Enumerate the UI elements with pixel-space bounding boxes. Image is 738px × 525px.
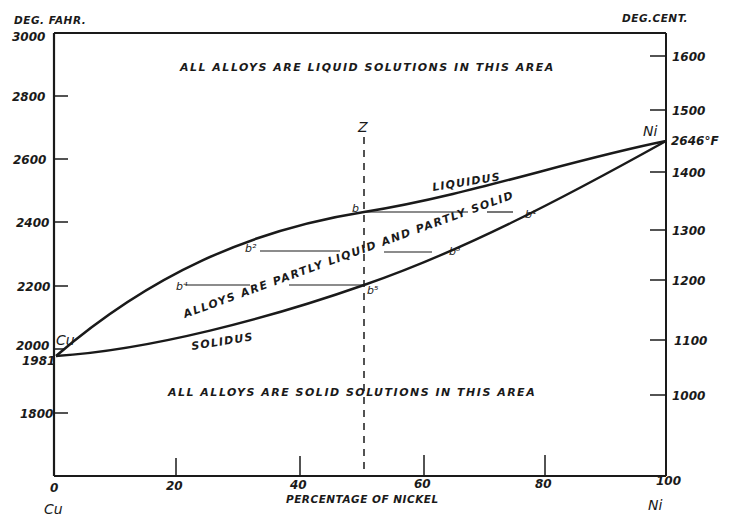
x-right-element-label: Ni: [648, 497, 662, 513]
ni-melting-temp: 2646°F: [671, 134, 719, 148]
x-left-element-label: Cu: [44, 501, 63, 517]
y-tick-2800: 2800: [12, 90, 45, 104]
point-b4: b⁴: [176, 280, 188, 293]
right-axis-ticks: [650, 56, 666, 395]
x-tick-100: 100: [656, 474, 681, 488]
x-tick-0: 0: [50, 481, 58, 495]
point-b3: b³: [449, 245, 461, 258]
phase-diagram: DEG. FAHR. DEG.CENT. PERCENTAGE OF NICKE…: [0, 0, 738, 525]
c-tick-1400: 1400: [672, 166, 705, 180]
point-b: b: [352, 202, 359, 215]
left-axis-ticks: [54, 96, 68, 413]
y-tick-1800: 1800: [20, 407, 53, 421]
c-tick-1600: 1600: [672, 50, 705, 64]
solid-region-label: ALL ALLOYS ARE SOLID SOLUTIONS IN THIS A…: [167, 386, 536, 399]
y-tick-2000: 2000: [16, 339, 49, 353]
cu-melting-temp: 1981: [22, 354, 55, 368]
left-axis-labels: 3000 2800 2600 2400 2200 2000 1800 1981: [12, 30, 55, 421]
x-tick-20: 20: [166, 479, 183, 493]
c-tick-1500: 1500: [672, 104, 705, 118]
point-b1: b¹: [525, 208, 536, 221]
right-axis-title: DEG.CENT.: [622, 12, 688, 24]
liquid-region-label: ALL ALLOYS ARE LIQUID SOLUTIONS IN THIS …: [179, 61, 555, 74]
point-b5: b⁵: [367, 284, 378, 297]
cu-point-label: Cu: [56, 332, 75, 348]
mushy-region-label: ALLOYS ARE PARTLY LIQUID AND PARTLY SOLI…: [181, 189, 516, 322]
x-tick-60: 60: [414, 477, 431, 491]
c-tick-1200: 1200: [672, 274, 705, 288]
c-tick-1300: 1300: [672, 224, 705, 238]
x-axis-labels: 0 20 40 60 80 100: [50, 474, 681, 495]
y-tick-2600: 2600: [13, 153, 46, 167]
y-tick-2200: 2200: [17, 280, 50, 294]
c-tick-1000: 1000: [672, 389, 705, 403]
left-axis-title: DEG. FAHR.: [14, 14, 86, 26]
x-tick-80: 80: [535, 477, 552, 491]
x-axis-title: PERCENTAGE OF NICKEL: [286, 493, 439, 505]
ni-point-label: Ni: [643, 123, 657, 139]
composition-line-label: Z: [357, 119, 368, 135]
right-axis-labels: 1600 1500 1400 1300 1200 1100 1000 2646°…: [671, 50, 719, 403]
x-tick-40: 40: [289, 478, 307, 492]
y-tick-3000: 3000: [12, 30, 45, 44]
c-tick-1100: 1100: [674, 334, 707, 348]
point-b2: b²: [245, 242, 257, 255]
y-tick-2400: 2400: [16, 216, 49, 230]
x-axis-ticks: [176, 455, 545, 476]
